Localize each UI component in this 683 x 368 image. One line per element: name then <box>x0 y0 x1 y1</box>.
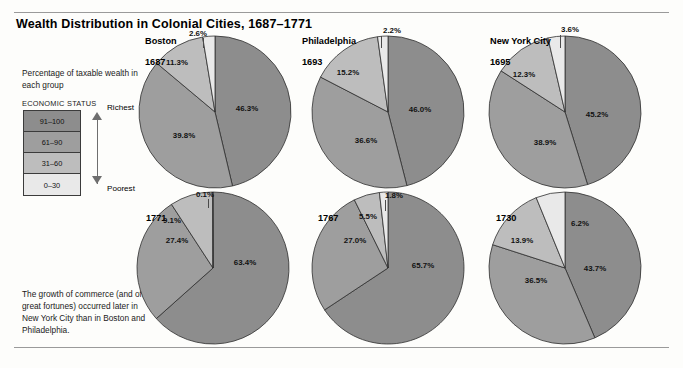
pie-slice-label: 0.1% <box>196 190 214 199</box>
pie-slice-label: 2.2% <box>383 26 401 35</box>
legend-swatch-label: 91–100 <box>24 117 80 126</box>
status-axis: Richest Poorest <box>88 110 134 194</box>
pie-chart <box>306 30 470 194</box>
pie-slice-label: 1.8% <box>385 191 403 200</box>
arrow-up-icon <box>92 112 102 120</box>
legend-swatch-4: 0–30 <box>24 174 80 195</box>
legend-swatch-label: 0–30 <box>24 180 80 189</box>
pie-chart <box>131 186 295 350</box>
pie-city-label: Philadelphia <box>302 36 356 46</box>
pie-slice-label: 36.6% <box>355 136 377 145</box>
figure-title: Wealth Distribution in Colonial Cities, … <box>16 17 312 31</box>
pie-year-label: 1693 <box>302 57 322 67</box>
pie-city-label: New York City <box>490 36 551 46</box>
pie-slice-label: 45.2% <box>586 110 608 119</box>
pie-year-label: 1695 <box>490 57 510 67</box>
legend-swatch-2: 61–90 <box>24 132 80 153</box>
pie-svg <box>306 30 470 194</box>
pie-slice-label: 27.0% <box>344 236 366 245</box>
pie-slice-label: 38.9% <box>534 138 556 147</box>
pie-slice-label: 2.6% <box>189 29 207 38</box>
pie-slice-label: 12.3% <box>513 70 535 79</box>
pie-slice-label: 15.2% <box>337 68 359 77</box>
label-leader-line <box>381 36 382 48</box>
pie-slice-label: 46.3% <box>236 104 258 113</box>
top-divider <box>14 12 669 13</box>
label-leader-line <box>560 35 561 48</box>
pie-slice-label: 46.0% <box>409 105 431 114</box>
pie-svg <box>133 30 297 194</box>
pie-slice-label: 13.9% <box>511 236 533 245</box>
arrow-down-icon <box>92 176 102 184</box>
legend-swatch-3: 31–60 <box>24 153 80 174</box>
pie-svg <box>483 186 647 350</box>
pie-slice-label: 63.4% <box>234 258 256 267</box>
figure-root: Wealth Distribution in Colonial Cities, … <box>0 0 683 368</box>
pie-slice-label: 36.5% <box>525 276 547 285</box>
pie-svg <box>483 30 647 194</box>
pie-city-label: Boston <box>145 36 177 46</box>
economic-status-legend: 91–10061–9031–600–30 <box>23 110 81 196</box>
pie-year-label: 1687 <box>145 57 165 67</box>
label-leader-line <box>208 199 209 208</box>
legend-swatch-label: 31–60 <box>24 159 80 168</box>
legend-swatch-label: 61–90 <box>24 138 80 147</box>
pie-slice-label: 27.4% <box>166 236 188 245</box>
axis-top-label: Richest <box>107 103 134 112</box>
pie-slice-label: 3.6% <box>561 25 579 34</box>
pie-slice-label: 5.5% <box>359 212 377 221</box>
pie-slice-label: 11.3% <box>166 58 188 67</box>
pie-chart <box>133 30 297 194</box>
pie-slice-label: 65.7% <box>412 261 434 270</box>
key-heading: ECONOMIC STATUS <box>22 99 97 108</box>
pie-slice-label: 9.1% <box>163 216 181 225</box>
label-leader-line <box>385 200 386 211</box>
pie-year-label: 1730 <box>496 213 516 223</box>
pie-chart <box>483 30 647 194</box>
pie-slice-label: 39.8% <box>173 131 195 140</box>
label-leader-line <box>203 38 204 48</box>
key-caption: Percentage of taxable wealth in each gro… <box>22 68 150 92</box>
pie-slice-label: 43.7% <box>584 264 606 273</box>
pie-year-label: 1767 <box>318 213 338 223</box>
legend-swatch-1: 91–100 <box>24 111 80 132</box>
pie-chart <box>483 186 647 350</box>
axis-line <box>97 120 98 184</box>
pie-chart <box>306 186 470 350</box>
pie-slice-label: 6.2% <box>571 219 589 228</box>
pie-svg <box>306 186 470 350</box>
pie-svg <box>131 186 295 350</box>
